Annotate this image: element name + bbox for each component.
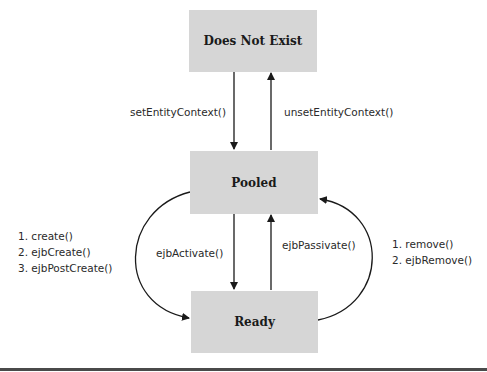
remove-curve-arrow [318, 199, 372, 320]
create-step-3: 3. ejbPostCreate() [18, 260, 112, 276]
bottom-rule-divider [0, 368, 487, 371]
label-set-entity-context: setEntityContext() [130, 104, 226, 120]
state-ready: Ready [191, 291, 318, 353]
remove-step-1: 1. remove() [392, 236, 472, 252]
create-step-1: 1. create() [18, 228, 112, 244]
label-ejb-activate: ejbActivate() [156, 245, 223, 261]
label-unset-entity-context: unsetEntityContext() [284, 104, 393, 120]
label-remove-sequence: 1. remove() 2. ejbRemove() [392, 236, 472, 268]
remove-step-2: 2. ejbRemove() [392, 252, 472, 268]
label-ejb-passivate: ejbPassivate() [282, 237, 356, 253]
create-step-2: 2. ejbCreate() [18, 244, 112, 260]
state-does-not-exist: Does Not Exist [189, 10, 317, 72]
label-create-sequence: 1. create() 2. ejbCreate() 3. ejbPostCre… [18, 228, 112, 276]
state-pooled: Pooled [190, 151, 318, 214]
